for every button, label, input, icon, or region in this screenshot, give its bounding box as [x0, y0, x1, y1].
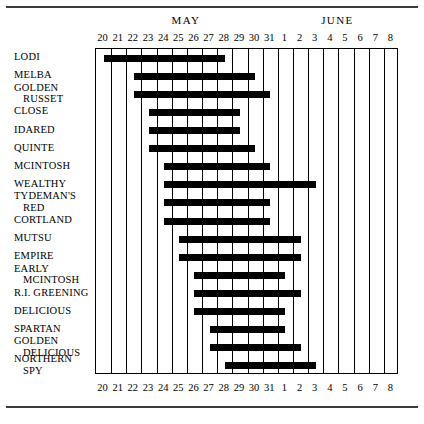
bloom-bar	[149, 145, 255, 152]
variety-label: MCINTOSH	[14, 160, 70, 172]
bloom-bar	[134, 91, 270, 98]
gridline-day-1	[278, 49, 279, 373]
day-tick-bottom-27: 27	[201, 381, 216, 394]
variety-label-line1: SPARTAN	[14, 323, 61, 334]
variety-label-line1: GOLDEN	[14, 335, 58, 346]
day-tick-top-8: 8	[383, 31, 398, 44]
x-axis-tick-labels-top: 20212223242526272829303112345678	[0, 31, 424, 44]
day-tick-bottom-5: 5	[337, 381, 352, 394]
day-tick-bottom-1: 1	[277, 381, 292, 394]
gridline-day-2	[293, 49, 294, 373]
day-tick-bottom-23: 23	[140, 381, 155, 394]
variety-label: DELICIOUS	[14, 305, 71, 317]
bloom-bar	[164, 218, 270, 225]
day-tick-bottom-4: 4	[322, 381, 337, 394]
day-tick-bottom-8: 8	[383, 381, 398, 394]
variety-label: EMPIRE	[14, 250, 54, 262]
bloom-bar	[164, 181, 316, 188]
day-tick-top-29: 29	[231, 31, 246, 44]
gridline-day-22	[126, 49, 127, 373]
month-label-may: MAY	[95, 14, 277, 26]
bloom-bar	[164, 199, 270, 206]
variety-label-line1: MCINTOSH	[14, 160, 70, 171]
bloom-bar	[134, 73, 255, 80]
variety-label: EARLYMCINTOSH	[14, 263, 79, 286]
variety-label-line1: GOLDEN	[14, 82, 58, 93]
bloom-bar	[179, 254, 300, 261]
day-tick-bottom-22: 22	[125, 381, 140, 394]
day-tick-top-28: 28	[216, 31, 231, 44]
bloom-period-chart: MAYJUNE 20212223242526272829303112345678…	[0, 0, 424, 424]
bloom-bar	[164, 163, 270, 170]
gridline-day-7	[369, 49, 370, 373]
bloom-bar	[225, 362, 316, 369]
variety-label-line1: NORTHERN	[14, 353, 72, 364]
day-tick-top-31: 31	[262, 31, 277, 44]
gridline-day-21	[111, 49, 112, 373]
day-tick-top-6: 6	[353, 31, 368, 44]
day-tick-bottom-26: 26	[186, 381, 201, 394]
variety-label: R.I. GREENING	[14, 287, 89, 299]
day-tick-top-25: 25	[171, 31, 186, 44]
variety-label-line2: SPY	[14, 365, 72, 377]
gridline-day-4	[323, 49, 324, 373]
bloom-bar	[149, 109, 240, 116]
bottom-rule	[6, 406, 418, 408]
day-tick-bottom-24: 24	[156, 381, 171, 394]
day-tick-bottom-2: 2	[292, 381, 307, 394]
variety-label: CORTLAND	[14, 214, 72, 226]
variety-label: LODI	[14, 51, 40, 63]
day-tick-top-30: 30	[247, 31, 262, 44]
day-tick-bottom-3: 3	[307, 381, 322, 394]
day-tick-top-5: 5	[337, 31, 352, 44]
day-tick-top-21: 21	[110, 31, 125, 44]
variety-label: SPARTAN	[14, 323, 61, 335]
bloom-bar	[194, 290, 300, 297]
day-tick-top-4: 4	[322, 31, 337, 44]
variety-label: TYDEMAN'SRED	[14, 190, 76, 213]
variety-label: IDARED	[14, 124, 55, 136]
variety-label: GOLDENRUSSET	[14, 82, 63, 105]
month-label-june: JUNE	[277, 14, 398, 26]
day-tick-top-24: 24	[156, 31, 171, 44]
day-tick-top-23: 23	[140, 31, 155, 44]
variety-label: MUTSU	[14, 232, 52, 244]
variety-label-line1: EARLY	[14, 263, 49, 274]
day-tick-bottom-29: 29	[231, 381, 246, 394]
variety-label-line1: WEALTHY	[14, 178, 66, 189]
day-tick-top-27: 27	[201, 31, 216, 44]
day-tick-bottom-25: 25	[171, 381, 186, 394]
variety-label: QUINTE	[14, 142, 54, 154]
day-tick-bottom-6: 6	[353, 381, 368, 394]
gridline-day-3	[308, 49, 309, 373]
variety-label-line2: RED	[14, 202, 76, 214]
day-tick-top-3: 3	[307, 31, 322, 44]
bloom-bar	[210, 326, 286, 333]
bloom-bar	[104, 55, 225, 62]
variety-label-line1: R.I. GREENING	[14, 287, 89, 298]
variety-label: WEALTHY	[14, 178, 66, 190]
day-tick-bottom-30: 30	[247, 381, 262, 394]
variety-label-line2: MCINTOSH	[14, 274, 79, 286]
variety-label-line1: IDARED	[14, 124, 55, 135]
variety-label: NORTHERNSPY	[14, 353, 72, 376]
variety-label-line1: LODI	[14, 51, 40, 62]
bloom-bar	[194, 308, 285, 315]
day-tick-bottom-21: 21	[110, 381, 125, 394]
bloom-bar	[210, 344, 301, 351]
day-tick-top-20: 20	[95, 31, 110, 44]
variety-label: CLOSE	[14, 105, 48, 117]
variety-label-line2: RUSSET	[14, 93, 63, 105]
day-tick-bottom-28: 28	[216, 381, 231, 394]
day-tick-top-7: 7	[368, 31, 383, 44]
variety-label-line1: CLOSE	[14, 105, 48, 116]
day-tick-top-1: 1	[277, 31, 292, 44]
variety-label-line1: CORTLAND	[14, 214, 72, 225]
bloom-bar	[194, 272, 285, 279]
variety-label-line1: TYDEMAN'S	[14, 190, 76, 201]
gridline-day-6	[354, 49, 355, 373]
day-tick-bottom-20: 20	[95, 381, 110, 394]
top-rule	[6, 6, 418, 8]
bloom-bar	[179, 236, 300, 243]
day-tick-top-2: 2	[292, 31, 307, 44]
